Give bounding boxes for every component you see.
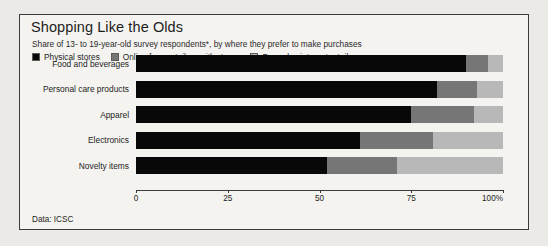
- chart-subtitle: Share of 13- to 19-year-old survey respo…: [32, 39, 362, 49]
- plot-area: Food and beveragesPersonal care products…: [136, 53, 503, 190]
- bar-segment: [397, 157, 503, 174]
- tick-label: 25: [223, 194, 232, 203]
- bar-row: Personal care products: [136, 81, 503, 98]
- bar-row: Novelty items: [136, 157, 503, 174]
- bar-segment: [411, 106, 473, 123]
- tick-label: 100%: [482, 194, 503, 203]
- chart-figure: Shopping Like the Olds Share of 13- to 1…: [19, 14, 529, 230]
- bar-segment: [433, 132, 503, 149]
- category-label: Food and beverages: [52, 59, 129, 69]
- bar-segment: [327, 157, 397, 174]
- bar-segment: [360, 132, 433, 149]
- bar-row: Food and beverages: [136, 55, 503, 72]
- bar-segment: [136, 55, 466, 72]
- tick-mark: [136, 190, 137, 193]
- chart-title: Shopping Like the Olds: [31, 19, 183, 35]
- bar-segment: [466, 55, 488, 72]
- tick-label: 50: [315, 194, 324, 203]
- bar-row: Electronics: [136, 132, 503, 149]
- bar-segment: [136, 81, 437, 98]
- category-label: Personal care products: [43, 84, 129, 94]
- tick-mark: [503, 190, 504, 193]
- x-axis-ticks: 0255075100%: [136, 190, 503, 208]
- source-note: Data: ICSC: [32, 215, 73, 224]
- tick-label: 75: [407, 194, 416, 203]
- bar-segment: [136, 106, 411, 123]
- tick-mark: [411, 190, 412, 193]
- bar-segment: [474, 106, 503, 123]
- bar-segment: [136, 157, 327, 174]
- tick-mark: [228, 190, 229, 193]
- bar-segment: [437, 81, 477, 98]
- tick-mark: [320, 190, 321, 193]
- category-label: Apparel: [100, 110, 129, 120]
- category-label: Electronics: [88, 135, 129, 145]
- bar-segment: [136, 132, 360, 149]
- category-label: Novelty items: [79, 161, 129, 171]
- tick-label: 0: [134, 194, 139, 203]
- bar-segment: [488, 55, 503, 72]
- legend-swatch-icon: [32, 53, 40, 61]
- bar-row: Apparel: [136, 106, 503, 123]
- bar-segment: [477, 81, 503, 98]
